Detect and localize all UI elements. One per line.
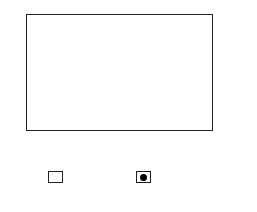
key-item-purl [136,170,155,183]
dot-icon [140,174,147,181]
empty-square-icon [48,171,63,183]
stitch-chart-grid [26,14,213,131]
dot-square-icon [136,171,151,183]
key-item-knit [48,170,67,183]
